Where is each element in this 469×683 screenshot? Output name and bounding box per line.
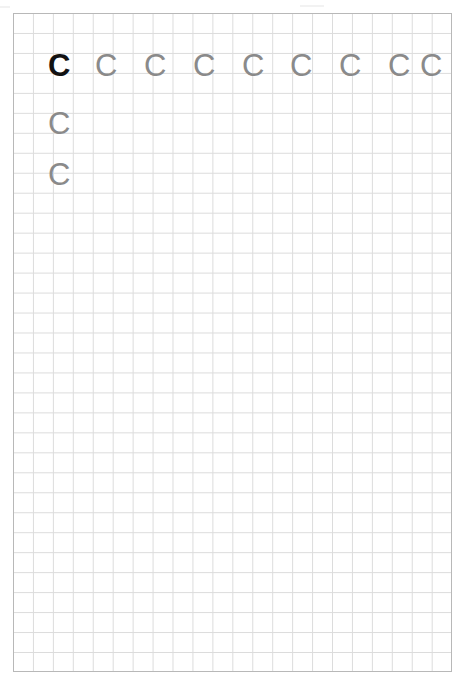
scan-bleed-mark-top-left (0, 6, 10, 8)
practice-row: C (14, 108, 453, 148)
trace-letter-glyph: C (95, 50, 117, 81)
worksheet-page: CCCCCCCCCCC (0, 0, 469, 683)
model-letter-glyph: C (48, 50, 70, 81)
trace-letter-glyph: C (48, 159, 70, 190)
trace-letter-glyph: C (420, 50, 442, 81)
trace-letter-glyph: C (193, 50, 215, 81)
practice-row: C (14, 159, 453, 199)
scan-bleed-mark-top-right (300, 5, 324, 7)
practice-row: CCCCCCCCC (14, 50, 453, 90)
trace-letter-glyph: C (388, 50, 410, 81)
trace-letter-glyph: C (290, 50, 312, 81)
trace-letter-glyph: C (48, 108, 70, 139)
trace-letter-glyph: C (339, 50, 361, 81)
practice-grid: CCCCCCCCCCC (13, 13, 452, 672)
trace-letter-glyph: C (242, 50, 264, 81)
trace-letter-glyph: C (144, 50, 166, 81)
letters-layer: CCCCCCCCCCC (14, 14, 453, 673)
